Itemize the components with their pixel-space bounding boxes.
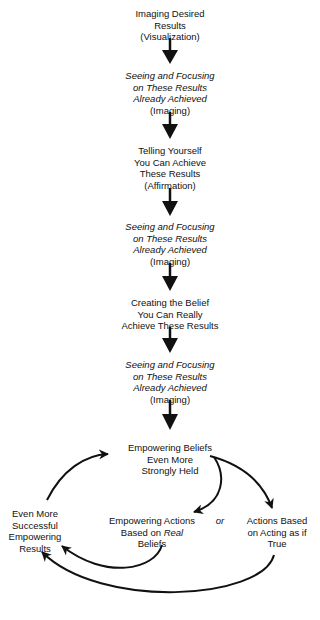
step-seeing-focusing-3: Seeing and Focusing on These Results Alr… <box>90 359 250 405</box>
down-arrow-2 <box>162 112 178 139</box>
step-imaging-desired-results: Imaging Desired Results (Visualization) <box>90 8 250 43</box>
step-creating-belief: Creating the Belief You Can Really Achie… <box>90 297 250 332</box>
node-successful-results: Even More Successful Empowering Results <box>4 508 66 554</box>
down-arrow-3 <box>162 188 178 216</box>
node-acting-as-if-true: Actions Based on Acting as if True <box>238 515 316 550</box>
node-empowering-beliefs: Empowering Beliefs Even More Strongly He… <box>90 442 250 477</box>
or-label: or <box>212 515 228 527</box>
step-seeing-focusing-1: Seeing and Focusing on These Results Alr… <box>90 70 250 116</box>
arrow-acting-actions-to-results <box>42 552 274 592</box>
down-arrow-4 <box>162 263 178 291</box>
node-empowering-actions: Empowering Actions Based on Real Beliefs <box>100 515 204 550</box>
step-telling-yourself: Telling Yourself You Can Achieve These R… <box>90 145 250 191</box>
step-seeing-focusing-2: Seeing and Focusing on These Results Alr… <box>90 221 250 267</box>
